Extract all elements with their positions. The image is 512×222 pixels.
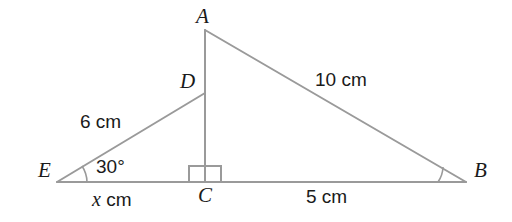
geometry-figure: A D E C B 10 cm 6 cm x cm 5 cm 30° xyxy=(0,0,512,222)
angle-label-E: 30° xyxy=(96,157,125,176)
angle-arc-at-B xyxy=(438,167,443,182)
side-length-label-CB: 5 cm xyxy=(306,187,347,206)
geometry-canvas xyxy=(0,0,512,222)
variable-x: x xyxy=(92,188,101,210)
unit-cm: cm xyxy=(101,189,132,210)
segment-A-B xyxy=(205,30,466,182)
vertex-label-A: A xyxy=(196,6,209,27)
vertex-label-E: E xyxy=(38,160,51,181)
side-length-label-ED: 6 cm xyxy=(80,112,121,131)
vertex-label-D: D xyxy=(180,71,195,92)
side-length-label-EC: x cm xyxy=(92,189,132,209)
angle-arc-at-E xyxy=(82,166,87,182)
side-length-label-AB: 10 cm xyxy=(315,70,367,89)
vertex-label-C: C xyxy=(198,185,212,206)
segment-E-D xyxy=(57,93,205,182)
vertex-label-B: B xyxy=(474,160,487,181)
